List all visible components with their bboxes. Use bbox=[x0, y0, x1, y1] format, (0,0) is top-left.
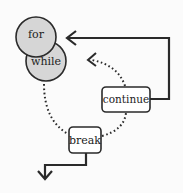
loop-control-diagram: for while continue break bbox=[0, 0, 183, 193]
while-label: while bbox=[26, 56, 66, 67]
break-to-continue-edge bbox=[102, 113, 126, 136]
continue-dotted-edge bbox=[92, 60, 125, 86]
break-label: break bbox=[69, 135, 101, 146]
while-to-break-edge bbox=[44, 84, 68, 134]
for-label: for bbox=[16, 29, 56, 40]
continue-label: continue bbox=[102, 94, 150, 105]
dotted-arrowhead-icon bbox=[88, 53, 96, 66]
break-exit-edge bbox=[45, 153, 86, 178]
